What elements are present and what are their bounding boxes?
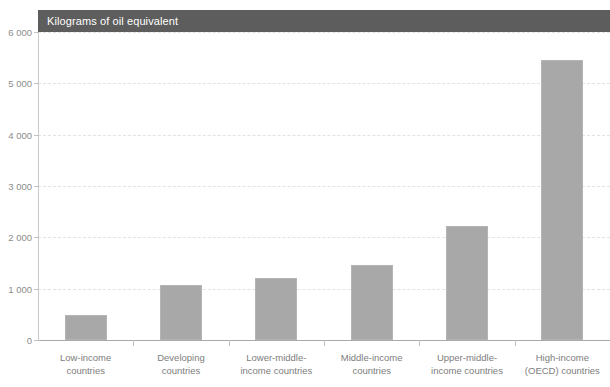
x-tick-label-line: Upper-middle- <box>419 352 514 365</box>
x-tick-label: Upper-middle-income countries <box>419 352 514 377</box>
bar <box>446 226 488 340</box>
x-tick-label: Developingcountries <box>133 352 228 377</box>
x-tick-label-line: income countries <box>229 365 324 378</box>
x-tick-label-line: (OECD) countries <box>515 365 610 378</box>
bar <box>65 315 107 340</box>
bar <box>255 278 297 340</box>
bar-chart: Kilograms of oil equivalent 6 0005 0004 … <box>0 0 610 387</box>
x-tick-label-line: Middle-income <box>324 352 419 365</box>
y-tick-label: 4 000 <box>0 129 32 140</box>
y-tick-label: 3 000 <box>0 181 32 192</box>
plot-area <box>38 32 610 340</box>
x-tick-label-line: countries <box>324 365 419 378</box>
bar <box>160 285 202 340</box>
x-tick-label: High-income(OECD) countries <box>515 352 610 377</box>
x-tick-label-line: countries <box>38 365 133 378</box>
bar <box>541 60 583 340</box>
x-tick-mark <box>133 340 134 346</box>
x-tick-label-line: Developing <box>133 352 228 365</box>
x-tick-label: Low-incomecountries <box>38 352 133 377</box>
y-tick-label: 6 000 <box>0 27 32 38</box>
x-tick-mark <box>229 340 230 346</box>
y-tick-label: 5 000 <box>0 78 32 89</box>
x-tick-mark <box>419 340 420 346</box>
x-tick-label-line: income countries <box>419 365 514 378</box>
x-tick-label-line: Low-income <box>38 352 133 365</box>
x-tick-label-line: countries <box>133 365 228 378</box>
bar <box>351 265 393 340</box>
x-tick-label-line: Lower-middle- <box>229 352 324 365</box>
x-tick-label: Middle-incomecountries <box>324 352 419 377</box>
x-tick-mark <box>324 340 325 346</box>
y-tick-label: 0 <box>0 335 32 346</box>
y-tick-mark <box>34 340 39 341</box>
y-tick-label: 2 000 <box>0 232 32 243</box>
x-tick-mark <box>515 340 516 346</box>
x-tick-label-line: High-income <box>515 352 610 365</box>
x-tick-label: Lower-middle-income countries <box>229 352 324 377</box>
y-tick-label: 1 000 <box>0 283 32 294</box>
